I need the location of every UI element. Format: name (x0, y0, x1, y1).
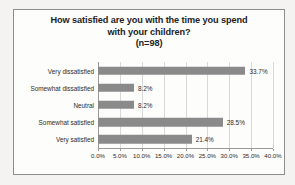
x-axis-tick-label: 30.0% (221, 152, 238, 159)
bar-row: Somewhat dissatisfied8.2% (98, 79, 273, 96)
bar (98, 66, 245, 75)
bar-series: Very dissatisfied33.7%Somewhat dissatisf… (98, 62, 273, 148)
category-label: Somewhat dissatisfied (30, 84, 94, 91)
bar-value-label: 28.5% (227, 119, 245, 126)
category-label: Somewhat satisfied (39, 119, 94, 126)
x-axis-ticks: 0.0%5.0%10.0%15.0%20.0%25.0%30.0%35.0%40… (98, 149, 273, 161)
bar (98, 101, 134, 110)
x-axis-tick-label: 20.0% (177, 152, 194, 159)
tick-mark (251, 149, 252, 151)
chart-container: How satisfied are you with the time you … (13, 9, 285, 175)
tick-mark (207, 149, 208, 151)
chart-title-line-1: How satisfied are you with the time you … (14, 15, 284, 27)
category-label: Very dissatisfied (48, 67, 94, 74)
bar-row: Somewhat satisfied28.5% (98, 114, 273, 131)
chart-sample-size: (n=98) (14, 38, 284, 50)
tick-mark (98, 149, 99, 151)
tick-mark (164, 149, 165, 151)
x-axis-tick-label: 35.0% (242, 152, 259, 159)
chart-title-line-2: with your children? (14, 27, 284, 39)
plot-area: Very dissatisfied33.7%Somewhat dissatisf… (98, 62, 273, 148)
tick-mark (120, 149, 121, 151)
bar (98, 84, 134, 93)
x-axis-tick-label: 25.0% (199, 152, 216, 159)
x-axis-tick-label: 0.0% (91, 152, 105, 159)
bar (98, 118, 223, 127)
x-axis-tick-label: 10.0% (133, 152, 150, 159)
chart-title: How satisfied are you with the time you … (14, 15, 284, 50)
x-axis-tick-label: 40.0% (264, 152, 281, 159)
bar-row: Very dissatisfied33.7% (98, 62, 273, 79)
bar-value-label: 33.7% (249, 67, 267, 74)
gridline-40.0% (273, 62, 274, 148)
bar-row: Very satisfied21.4% (98, 131, 273, 148)
bar-row: Neutral8.2% (98, 96, 273, 113)
tick-mark (142, 149, 143, 151)
x-axis-tick-label: 15.0% (155, 152, 172, 159)
bar-value-label: 8.2% (138, 101, 153, 108)
category-label: Neutral (73, 101, 94, 108)
tick-mark (186, 149, 187, 151)
tick-mark (273, 149, 274, 151)
bar (98, 135, 192, 144)
bar-value-label: 8.2% (138, 84, 153, 91)
category-label: Very satisfied (56, 136, 94, 143)
tick-mark (229, 149, 230, 151)
x-axis-tick-label: 5.0% (113, 152, 127, 159)
bar-value-label: 21.4% (196, 136, 214, 143)
